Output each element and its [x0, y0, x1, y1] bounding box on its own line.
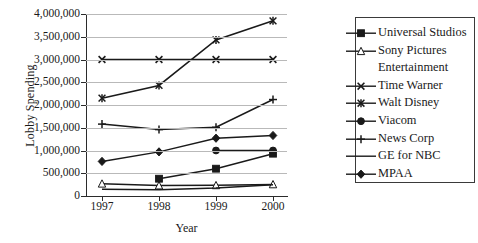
legend-marker-filled-square-icon	[344, 24, 378, 42]
legend-label: News Corp	[378, 130, 434, 148]
y-axis-tick-label: 4,000,000	[34, 7, 80, 19]
legend-label: GE for NBC	[378, 147, 441, 165]
y-axis-tick-label: 2,500,000	[34, 75, 80, 87]
x-axis-line	[86, 196, 288, 197]
legend-item: Time Warner	[344, 77, 476, 95]
legend-item: MPAA	[344, 165, 476, 183]
x-axis-tick-label: 1999	[186, 200, 246, 212]
legend-item: Viacom	[344, 112, 476, 130]
legend: Universal StudiosSony PicturesEntertainm…	[355, 17, 475, 183]
y-axis-tick-label: 1,500,000	[34, 121, 80, 133]
series-line	[102, 184, 273, 186]
gridline	[86, 128, 287, 129]
y-axis-tick-labels: 0500,0001,000,0001,500,0002,000,0002,500…	[0, 14, 80, 197]
y-axis-tick	[81, 14, 86, 15]
legend-label: MPAA	[378, 165, 413, 183]
y-axis-tick	[81, 151, 86, 152]
legend-item: Walt Disney	[344, 94, 476, 112]
gridline	[86, 37, 287, 38]
legend-label: Time Warner	[378, 77, 443, 95]
legend-marker-none-icon	[344, 147, 378, 165]
x-axis-tick-label: 2000	[243, 200, 303, 212]
data-point-marker	[270, 17, 277, 25]
y-axis-tick	[81, 105, 86, 106]
y-axis-tick	[81, 82, 86, 83]
data-point-marker	[269, 96, 277, 104]
legend-item: Universal Studios	[344, 24, 476, 42]
legend-label-continuation: Entertainment	[344, 59, 476, 77]
legend-item: GE for NBC	[344, 147, 476, 165]
gridline	[86, 151, 287, 152]
legend-marker-filled-diamond-icon	[344, 165, 378, 183]
series-line	[102, 135, 273, 161]
legend-marker-asterisk-icon	[344, 94, 378, 112]
legend-label: Universal Studios	[378, 24, 466, 42]
data-point-marker	[155, 148, 163, 156]
legend-marker-cross-x-icon	[344, 77, 378, 95]
chart-figure: Lobby Spending 0500,0001,000,0001,500,00…	[0, 0, 478, 243]
data-point-marker	[98, 157, 106, 165]
legend-item: Sony Pictures	[344, 42, 476, 60]
y-axis-tick-label: 2,000,000	[34, 98, 80, 110]
y-axis-tick-label: 3,500,000	[34, 30, 80, 42]
legend-label: Walt Disney	[378, 94, 439, 112]
legend-marker-open-triangle-icon	[344, 42, 378, 60]
plot-area	[86, 14, 287, 196]
legend-label: Sony Pictures	[378, 42, 447, 60]
legend-marker-plus-icon	[344, 130, 378, 148]
y-axis-tick	[81, 173, 86, 174]
legend-items: Universal StudiosSony PicturesEntertainm…	[344, 24, 476, 182]
x-axis-tick-label: 1998	[129, 200, 189, 212]
gridline	[86, 60, 287, 61]
y-axis-tick	[81, 37, 86, 38]
y-axis-tick-label: 1,000,000	[34, 144, 80, 156]
gridline	[86, 14, 287, 15]
gridline	[86, 173, 287, 174]
legend-item: News Corp	[344, 130, 476, 148]
y-axis-tick	[81, 60, 86, 61]
legend-marker-filled-circle-icon	[344, 112, 378, 130]
data-point-marker	[212, 134, 220, 142]
y-axis-tick	[81, 196, 86, 197]
y-axis-tick-label: 3,000,000	[34, 53, 80, 65]
gridline	[86, 82, 287, 83]
x-axis-title: Year	[86, 221, 287, 236]
data-point-marker	[269, 131, 277, 139]
data-point-marker	[213, 165, 220, 172]
gridline	[86, 105, 287, 106]
y-axis-tick-label: 500,000	[43, 166, 80, 178]
legend-label: Viacom	[378, 112, 416, 130]
y-axis-tick	[81, 128, 86, 129]
x-axis-tick-label: 1997	[72, 200, 132, 212]
